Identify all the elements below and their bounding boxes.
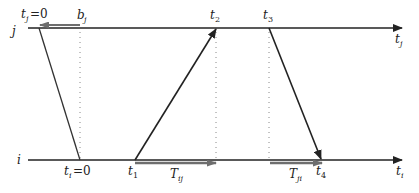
svg-text:i: i [401,171,404,180]
message-i-to-j-request [135,29,216,160]
label-t3: t 3 [263,8,273,24]
label-t4: t 4 [316,164,326,180]
label-ti0: t i =0 [64,164,91,180]
process-i-label: i [17,153,21,167]
svg-text:ij: ij [178,174,184,183]
svg-text:=0: =0 [73,164,91,178]
label-tj-axis: t j [395,32,403,48]
svg-text:2: 2 [215,15,220,24]
label-tj0: t j =0 [21,7,48,23]
svg-text:i: i [69,171,72,180]
svg-text:3: 3 [268,15,273,24]
label-t1: t 1 [128,164,138,180]
svg-text:=0: =0 [30,7,48,21]
message-j-to-i-reply [269,28,321,159]
label-bj: b j [77,8,87,24]
label-Tji: T ji [289,167,302,183]
svg-text:1: 1 [133,171,138,180]
label-Tij: T ij [170,167,184,183]
timeline-diagram: j i t j =0 b j t 2 t 3 t j t i =0 t 1 T … [0,0,419,193]
svg-text:ji: ji [295,174,302,183]
label-ti-axis: t i [396,164,404,180]
message-j-to-i-sync [39,28,80,160]
process-j-label: j [9,24,16,38]
svg-text:4: 4 [321,171,326,180]
label-t2: t 2 [210,8,220,24]
